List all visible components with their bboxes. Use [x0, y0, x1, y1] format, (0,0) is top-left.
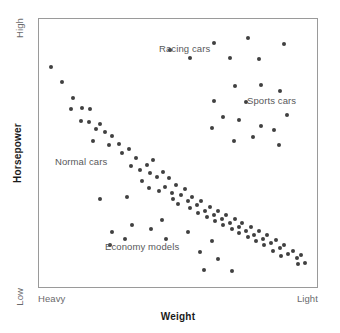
data-point — [252, 233, 256, 237]
data-point — [233, 84, 237, 88]
y-axis-bottom-label: Low — [14, 288, 25, 306]
data-point — [210, 239, 214, 243]
data-point — [157, 189, 161, 193]
data-point — [188, 56, 192, 60]
data-point — [155, 175, 159, 179]
data-point — [278, 89, 282, 93]
data-point — [296, 262, 300, 266]
data-point — [129, 164, 133, 168]
data-point — [196, 211, 200, 215]
data-point — [261, 237, 265, 241]
data-point — [233, 217, 237, 221]
data-point — [138, 168, 142, 172]
data-point — [237, 225, 241, 229]
data-point — [176, 202, 180, 206]
x-axis-title: Weight — [161, 311, 195, 322]
data-point — [91, 139, 95, 143]
data-point — [257, 57, 261, 61]
data-point — [254, 239, 258, 243]
data-point — [279, 254, 283, 258]
data-point — [188, 206, 192, 210]
data-point — [148, 171, 152, 175]
data-point — [244, 229, 248, 233]
data-point — [160, 218, 164, 222]
data-point — [265, 233, 269, 237]
data-point — [98, 122, 102, 126]
cluster-label-racing-cars: Racing cars — [159, 43, 210, 54]
data-point — [80, 106, 84, 110]
data-point — [274, 238, 278, 242]
data-point — [299, 253, 303, 257]
cluster-label-normal-cars: Normal cars — [55, 156, 107, 167]
plot-area: Racing cars Sports cars Normal cars Econ… — [38, 18, 318, 288]
data-point — [161, 170, 165, 174]
data-point — [237, 118, 241, 122]
data-point — [107, 143, 111, 147]
data-point — [134, 156, 138, 160]
data-point — [125, 195, 129, 199]
data-point — [103, 130, 107, 134]
data-point — [295, 256, 299, 260]
data-point — [282, 42, 286, 46]
data-point — [120, 151, 124, 155]
data-point — [140, 179, 144, 183]
data-point — [163, 185, 167, 189]
data-point — [130, 223, 134, 227]
data-point — [87, 120, 91, 124]
data-point — [278, 246, 282, 250]
data-point — [220, 217, 224, 221]
data-point — [195, 203, 199, 207]
data-point — [170, 191, 174, 195]
data-point — [147, 186, 151, 190]
data-point — [110, 134, 114, 138]
data-point — [232, 139, 236, 143]
data-point — [167, 176, 171, 180]
data-point — [60, 80, 64, 84]
data-point — [199, 199, 203, 203]
data-point — [240, 221, 244, 225]
data-point — [285, 113, 289, 117]
data-point — [282, 243, 286, 247]
data-point — [186, 230, 190, 234]
data-point — [210, 126, 214, 130]
x-axis-right-label: Light — [297, 293, 318, 304]
data-point — [216, 257, 220, 261]
cluster-label-economy-models: Economy models — [105, 241, 179, 252]
data-point — [272, 128, 276, 132]
data-point — [179, 193, 183, 197]
data-point — [303, 261, 307, 265]
data-point — [127, 147, 131, 151]
cluster-label-sports-cars: Sports cars — [247, 95, 296, 106]
data-point — [246, 235, 250, 239]
data-point — [221, 115, 225, 119]
data-point — [291, 249, 295, 253]
data-point — [203, 209, 207, 213]
data-point — [49, 65, 53, 69]
data-point — [174, 183, 178, 187]
x-axis-left-label: Heavy — [38, 293, 65, 304]
data-point — [228, 221, 232, 225]
data-point — [246, 36, 250, 40]
data-point — [251, 135, 255, 139]
data-point — [145, 163, 149, 167]
data-point — [257, 229, 261, 233]
data-point — [277, 143, 281, 147]
data-point — [228, 56, 232, 60]
data-point — [69, 107, 73, 111]
data-point — [271, 249, 275, 253]
data-point — [202, 268, 206, 272]
data-point — [230, 227, 234, 231]
data-point — [208, 205, 212, 209]
data-point — [94, 127, 98, 131]
data-point — [79, 119, 83, 123]
y-axis-title: Horsepower — [12, 123, 23, 183]
data-point — [269, 241, 273, 245]
data-point — [224, 213, 228, 217]
data-point — [262, 243, 266, 247]
data-point — [230, 269, 234, 273]
data-point — [71, 96, 75, 100]
data-point — [198, 250, 202, 254]
data-point — [205, 215, 209, 219]
data-point — [149, 227, 153, 231]
data-point — [110, 230, 114, 234]
